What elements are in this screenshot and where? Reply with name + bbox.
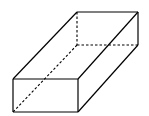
visible-edge — [13, 12, 77, 79]
visible-edge — [78, 45, 138, 112]
visible-edges — [13, 12, 138, 112]
hidden-edges — [13, 12, 138, 112]
cuboid-diagram — [0, 0, 149, 116]
